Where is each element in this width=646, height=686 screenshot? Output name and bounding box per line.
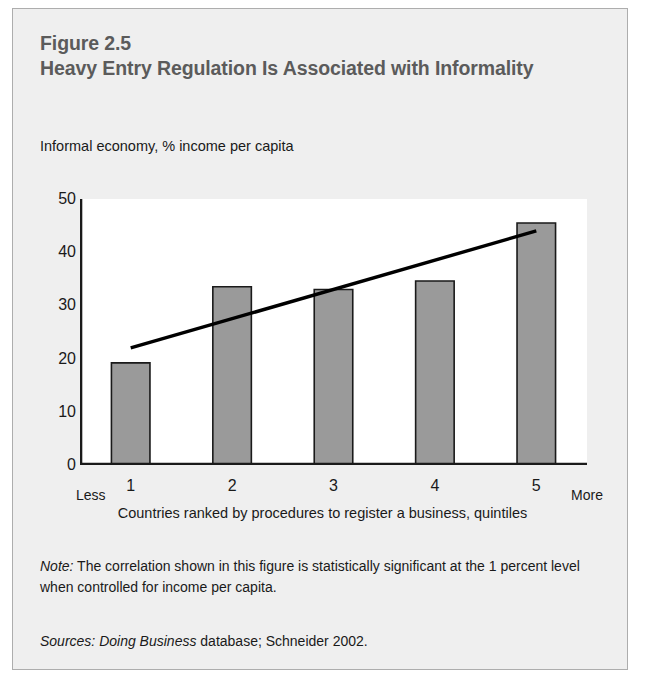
figure-note: Note: The correlation shown in this figu… (40, 556, 585, 598)
y-tick-50: 50 (42, 190, 76, 208)
note-text: The correlation shown in this figure is … (40, 558, 580, 595)
sources-label: Sources: (40, 633, 95, 649)
figure-card: Figure 2.5 Heavy Entry Regulation Is Ass… (12, 8, 628, 670)
bars-group (111, 223, 555, 465)
figure-sources: Sources: Doing Business database; Schnei… (40, 631, 585, 652)
x-axis-end-label-less: Less (76, 487, 106, 503)
sources-italic-part: Doing Business (95, 633, 196, 649)
plot-frame (80, 199, 587, 465)
page-title: Heavy Entry Regulation Is Associated wit… (40, 56, 580, 81)
x-axis-tick-labels: 12345 (80, 477, 587, 501)
figure-title-block: Figure 2.5 Heavy Entry Regulation Is Ass… (40, 31, 580, 81)
x-axis-caption: Countries ranked by procedures to regist… (40, 505, 605, 521)
y-tick-40: 40 (42, 243, 76, 261)
x-tick-1: 1 (126, 477, 135, 495)
y-tick-0: 0 (42, 456, 76, 474)
x-tick-3: 3 (329, 477, 338, 495)
bar-3 (314, 289, 353, 465)
x-tick-5: 5 (532, 477, 541, 495)
chart-area: 01020304050 12345 Less More Countries ra… (40, 187, 605, 487)
y-axis-caption: Informal economy, % income per capita (40, 138, 294, 154)
figure-number: Figure 2.5 (40, 31, 580, 56)
x-tick-4: 4 (430, 477, 439, 495)
y-tick-10: 10 (42, 403, 76, 421)
bar-5 (517, 223, 556, 465)
y-tick-30: 30 (42, 296, 76, 314)
bar-chart-svg (80, 199, 587, 465)
y-axis-tick-labels: 01020304050 (40, 187, 76, 487)
x-axis-end-label-more: More (571, 487, 603, 503)
x-tick-2: 2 (228, 477, 237, 495)
bar-4 (416, 281, 455, 465)
note-label: Note: (40, 558, 73, 574)
y-tick-20: 20 (42, 350, 76, 368)
sources-rest: database; Schneider 2002. (196, 633, 367, 649)
bar-1 (111, 363, 150, 465)
